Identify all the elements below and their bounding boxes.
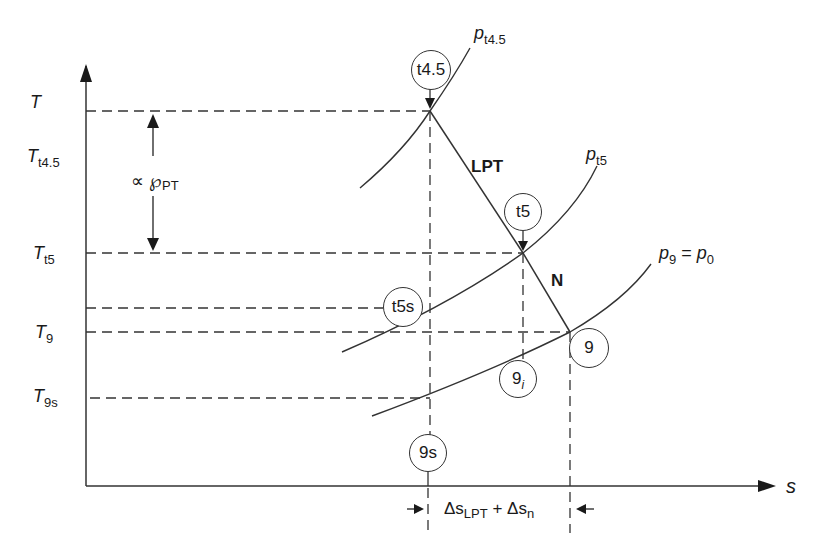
lpt-expansion-line	[430, 111, 523, 253]
power-proportional-label: ∝ ℘PT	[131, 172, 179, 190]
nozzle-expansion-line	[523, 253, 570, 332]
t45-pointer-arrow-icon	[425, 98, 435, 109]
isobar-label-p9-p0: p9 = p0	[659, 244, 714, 262]
power-arrow-up-icon	[147, 114, 159, 128]
y-level-label-Tt5: Tt5	[33, 244, 55, 262]
state-point-t5s: t5s	[383, 287, 423, 327]
isobar-pt5	[342, 166, 597, 352]
power-arrow-down-icon	[147, 238, 159, 251]
entropy-arrow-right-icon	[414, 504, 424, 514]
ts-diagram-canvas	[0, 0, 823, 559]
isobar-label-pt45: pt4.5	[474, 24, 506, 42]
entropy-arrow-left-icon	[576, 504, 586, 514]
y-axis-label-T: T	[30, 93, 41, 111]
state-point-9s: 9s	[409, 434, 447, 472]
state-point-t45: t4.5	[411, 50, 451, 90]
entropy-delta-label: ΔsLPT + Δsn	[444, 500, 534, 517]
state-point-9: 9	[569, 328, 609, 368]
isobar-label-pt5: pt5	[586, 145, 607, 163]
y-level-label-Tt45: Tt4.5	[27, 147, 60, 165]
state-point-9i: 9i	[499, 360, 537, 398]
x-axis-arrow-icon	[758, 480, 776, 492]
lpt-process-label: LPT	[471, 158, 503, 175]
x-axis-label-s: s	[786, 476, 796, 496]
state-point-t5: t5	[504, 193, 542, 231]
y-axis-arrow-icon	[80, 64, 92, 82]
y-level-label-T9s: T9s	[33, 387, 58, 405]
y-level-label-T9: T9	[35, 323, 53, 341]
nozzle-process-label: N	[551, 272, 563, 289]
